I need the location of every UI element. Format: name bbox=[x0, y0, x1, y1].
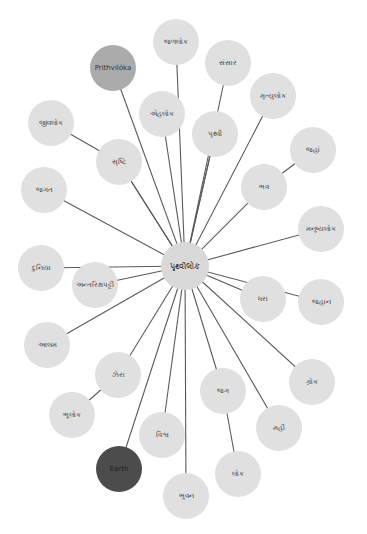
graph-node[interactable]: જગ bbox=[200, 368, 246, 414]
graph-node[interactable]: જગત bbox=[21, 167, 67, 213]
graph-node[interactable]: ગ્રોક bbox=[289, 359, 335, 405]
node-label: એહલોક bbox=[150, 109, 174, 118]
node-label: ઝેરા bbox=[112, 370, 125, 379]
graph-node[interactable]: ધરા bbox=[240, 276, 286, 322]
graph-node[interactable]: દુનિયા bbox=[18, 245, 64, 291]
node-label: પૃથ્વીલોક bbox=[170, 261, 200, 271]
node-label: આલમ bbox=[38, 341, 57, 349]
node-label: ગ્રોક bbox=[306, 377, 318, 386]
graph-node[interactable]: Earth bbox=[96, 446, 142, 492]
graph-node[interactable]: આલમ bbox=[24, 322, 70, 368]
graph-node[interactable]: ભવ bbox=[241, 164, 287, 210]
network-graph: જળલોકસંસારPrithvilókaમૃત્યુલોકએહલોકપૃથ્વ… bbox=[0, 0, 367, 534]
node-label: સૃષ્ટિ bbox=[112, 157, 126, 166]
graph-node[interactable]: જળલોક bbox=[153, 19, 199, 65]
graph-node[interactable]: લોક bbox=[215, 451, 261, 497]
edge-c-n1 bbox=[176, 42, 185, 266]
node-label: ધરા bbox=[258, 295, 268, 303]
node-label: પૃથ્વી bbox=[208, 129, 222, 138]
graph-node[interactable]: વિશ્વ bbox=[139, 412, 185, 458]
graph-node[interactable]: ભૂલોક bbox=[49, 392, 95, 438]
node-label: વિશ્વ bbox=[156, 430, 169, 439]
node-label: ભુવન bbox=[179, 492, 194, 500]
graph-node[interactable]: જહાન bbox=[298, 279, 344, 325]
node-label: Prithvilóka bbox=[95, 64, 132, 72]
node-label: મહી bbox=[273, 423, 285, 432]
node-label: Earth bbox=[110, 465, 129, 473]
edge-c-n23 bbox=[162, 266, 185, 435]
center-node[interactable]: પૃથ્વીલોક bbox=[161, 242, 209, 290]
graph-node[interactable]: એહલોક bbox=[139, 91, 185, 137]
node-label: અન્તરિક્ષપટ્ટી bbox=[76, 280, 114, 289]
node-label: ભૂલોક bbox=[63, 410, 81, 419]
graph-node[interactable]: સૃષ્ટિ bbox=[96, 139, 142, 185]
graph-node[interactable]: સંસાર bbox=[205, 40, 251, 86]
graph-node[interactable]: મૃત્યુલોક bbox=[250, 73, 296, 119]
graph-node[interactable]: ઝેરા bbox=[95, 352, 141, 398]
node-label: જગ bbox=[217, 387, 229, 395]
edge-c-n26 bbox=[185, 266, 186, 496]
graph-node[interactable]: Prithvilóka bbox=[90, 45, 136, 91]
node-label: દુનિયા bbox=[30, 263, 51, 272]
node-label: ભવ bbox=[259, 183, 270, 191]
graph-node[interactable]: અન્તરિક્ષપટ્ટી bbox=[72, 262, 118, 308]
graph-node[interactable]: ભુવન bbox=[163, 473, 209, 519]
graph-node[interactable]: મનુષ્યલોક bbox=[298, 206, 344, 252]
node-label: મૃત્યુલોક bbox=[260, 91, 286, 100]
node-label: જીવલોક bbox=[39, 118, 63, 127]
graph-node[interactable]: જીવલોક bbox=[28, 100, 74, 146]
graph-node[interactable]: મહી bbox=[256, 405, 302, 451]
graph-node[interactable]: પૃથ્વી bbox=[192, 111, 238, 157]
graph-node[interactable]: જહાં bbox=[290, 127, 336, 173]
node-label: જહાં bbox=[306, 146, 320, 154]
edge-c-n11 bbox=[44, 190, 185, 266]
node-label: સંસાર bbox=[219, 59, 237, 67]
node-label: જળલોક bbox=[164, 37, 188, 46]
node-label: જગત bbox=[36, 186, 53, 194]
nodes-layer: જળલોકસંસારPrithvilókaમૃત્યુલોકએહલોકપૃથ્વ… bbox=[18, 19, 344, 519]
node-label: જહાન bbox=[312, 298, 331, 306]
node-label: મનુષ્યલોક bbox=[306, 224, 336, 233]
node-label: લોક bbox=[232, 469, 244, 478]
